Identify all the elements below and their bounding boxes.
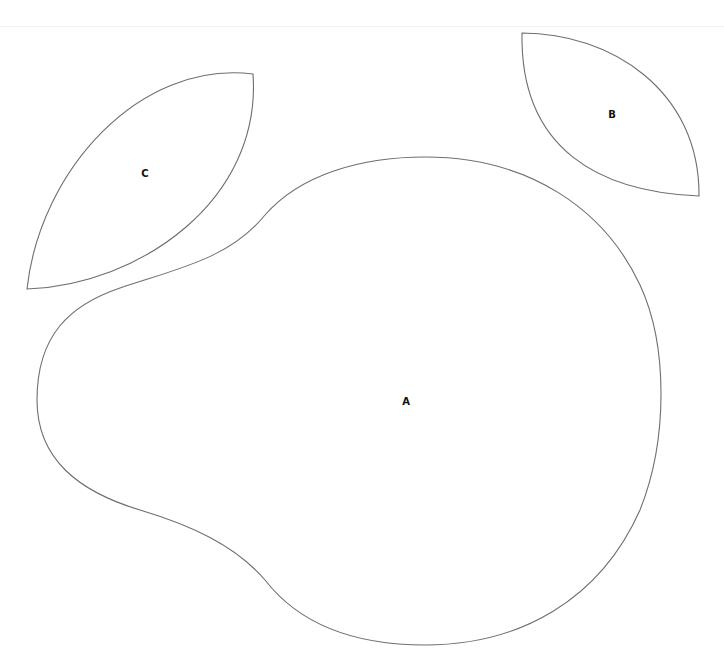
region-diagram: A B C bbox=[0, 0, 724, 649]
region-c-label: C bbox=[141, 168, 148, 179]
region-b-label: B bbox=[608, 109, 616, 120]
region-a-label: A bbox=[402, 396, 410, 407]
region-b: B bbox=[522, 33, 699, 196]
